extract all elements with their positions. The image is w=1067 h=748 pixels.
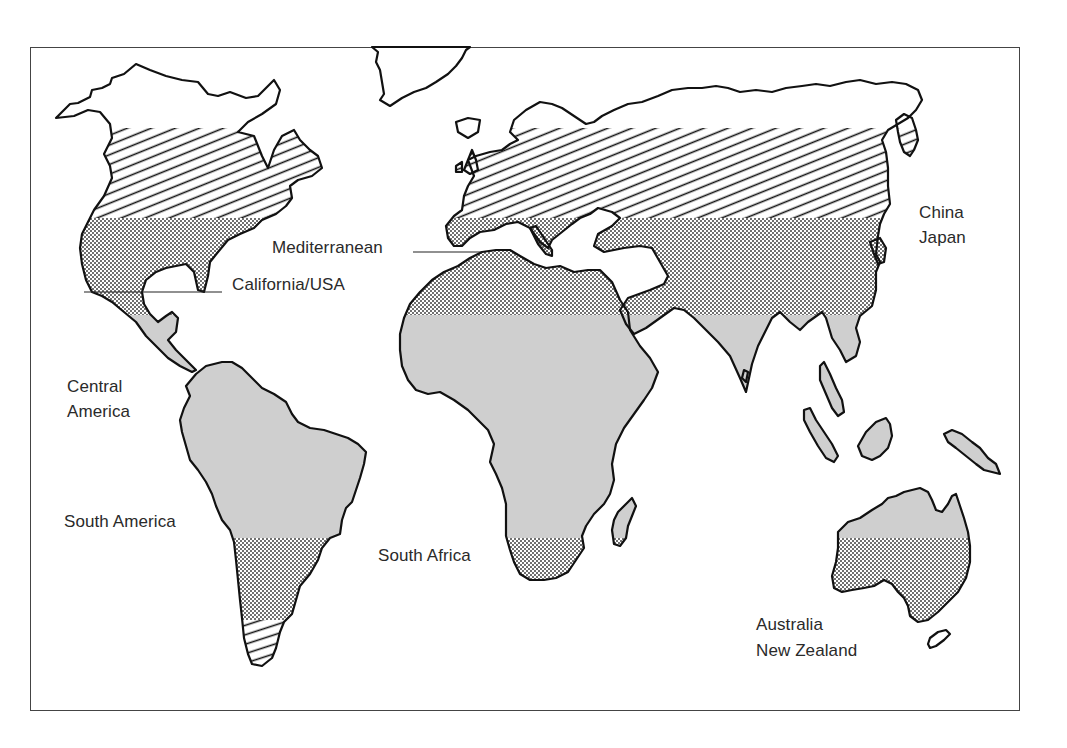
label-china: China bbox=[919, 202, 964, 224]
label-australia: Australia bbox=[756, 614, 823, 636]
label-japan: Japan bbox=[919, 227, 966, 249]
label-south-america: South America bbox=[64, 511, 176, 533]
label-california: California/USA bbox=[232, 274, 345, 296]
continent-fills bbox=[56, 47, 1000, 666]
label-mediterranean: Mediterranean bbox=[272, 237, 383, 259]
label-new-zealand: New Zealand bbox=[756, 640, 857, 662]
label-south-africa: South Africa bbox=[378, 545, 471, 567]
label-central: Central bbox=[67, 376, 123, 398]
world-map bbox=[0, 0, 1067, 748]
label-america: America bbox=[67, 401, 130, 423]
